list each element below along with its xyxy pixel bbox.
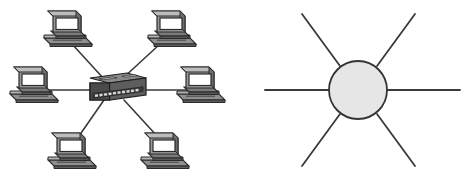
link-hub-to-computer-bottom-right: [124, 100, 157, 136]
logical-star-panel: [235, 0, 470, 177]
computer-bottom-left[interactable]: [48, 133, 96, 169]
spoke-north-west: [302, 14, 340, 66]
physical-star-panel: [0, 0, 235, 177]
spoke-south-west: [302, 114, 340, 166]
star-topology-figure: [0, 0, 470, 177]
computer-bottom-right[interactable]: [141, 133, 189, 169]
link-hub-to-computer-top-left: [72, 44, 104, 79]
computer-top-left[interactable]: [44, 11, 92, 47]
computer-middle-left[interactable]: [10, 67, 58, 103]
physical-star-svg: [0, 0, 235, 177]
computer-middle-right[interactable]: [177, 67, 225, 103]
spoke-north-east: [377, 14, 415, 66]
logical-star-svg: [235, 0, 470, 177]
network-hub[interactable]: [90, 73, 146, 100]
central-node[interactable]: [329, 61, 387, 119]
link-hub-to-computer-bottom-left: [79, 100, 104, 136]
computer-top-right[interactable]: [148, 11, 196, 47]
spoke-south-east: [377, 114, 415, 166]
